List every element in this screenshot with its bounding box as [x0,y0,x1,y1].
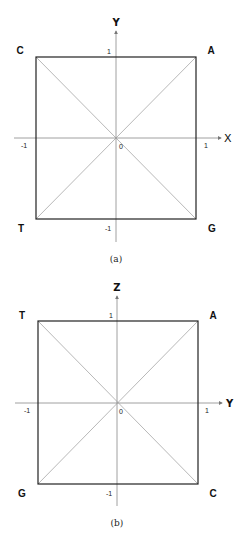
caption-a: (a) [110,254,122,264]
tick-top: 1 [109,312,113,319]
tick-right: 1 [204,142,208,149]
horizontal-axis-label: X [224,132,232,145]
corner-bottom-right: G [208,223,216,234]
corner-bottom-left: T [18,223,24,234]
corner-top-right: A [207,45,214,56]
vertical-axis-label: Y [111,17,120,28]
figure-a: Y X 1 -1 -1 1 0 C A T G (a) [14,17,232,264]
corner-top-left: T [19,310,25,321]
figure-b: Z Y 1 -1 -1 1 0 T A G C (b) [15,282,234,528]
caption-b: (b) [111,518,124,528]
tick-bottom: -1 [105,225,111,232]
tick-left: -1 [24,407,30,414]
tick-origin: 0 [119,143,123,150]
corner-bottom-left: G [18,488,26,499]
tick-right: 1 [205,407,209,414]
corner-bottom-right: C [209,488,216,499]
corner-top-left: C [16,45,23,56]
tick-origin: 0 [119,408,123,415]
horizontal-axis-label: Y [225,398,234,409]
tick-bottom: -1 [106,490,112,497]
corner-top-right: A [209,310,216,321]
tick-top: 1 [107,48,111,55]
tick-left: -1 [21,142,27,149]
vertical-axis-label: Z [113,282,120,293]
diagram-canvas: Y X 1 -1 -1 1 0 C A T G (a) Z Y 1 -1 -1 … [0,0,247,543]
